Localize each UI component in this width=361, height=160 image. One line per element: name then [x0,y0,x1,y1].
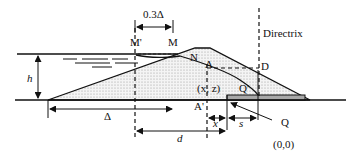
water-hatch [63,59,138,67]
label-a: A [205,58,213,70]
label-q: Q [281,116,289,128]
label-h: h [27,72,33,84]
label-n: N [190,51,198,63]
label-x: x [212,117,218,129]
label-a-prime: A' [194,100,204,112]
label-q-prime: Q' [239,82,249,94]
label-offset: 0.3Δ [143,8,164,20]
label-m: M [168,36,178,48]
label-d-point: D [261,60,269,72]
label-origin: (0,0) [273,138,294,151]
toe-drain [227,95,305,100]
label-xz: (x, z) [197,82,221,95]
label-delta: Δ [104,110,111,122]
label-d: d [177,132,183,144]
earth-dam-diagram: 0.3Δ M' M N Directrix A D h (x, z) Q' A'… [0,0,361,160]
label-s: s [239,117,243,129]
label-directrix: Directrix [263,27,303,39]
label-m-prime: M' [130,36,142,48]
